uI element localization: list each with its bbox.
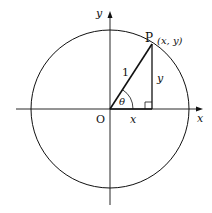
point-label: P (145, 31, 153, 45)
hypotenuse-label: 1 (122, 66, 129, 79)
unit-circle-diagram: y x O P (x, y) 1 y x θ (0, 0, 212, 213)
right-angle-marker (145, 102, 152, 109)
origin-label: O (96, 113, 105, 126)
angle-label: θ (119, 96, 125, 107)
y-axis-arrow-icon (108, 11, 113, 18)
y-axis-label: y (95, 7, 103, 20)
x-axis-label: x (197, 112, 204, 125)
adjacent-label: x (130, 113, 137, 126)
opposite-label: y (156, 72, 164, 85)
point-coords-label: (x, y) (157, 35, 183, 46)
x-axis-arrow-icon (196, 107, 203, 112)
